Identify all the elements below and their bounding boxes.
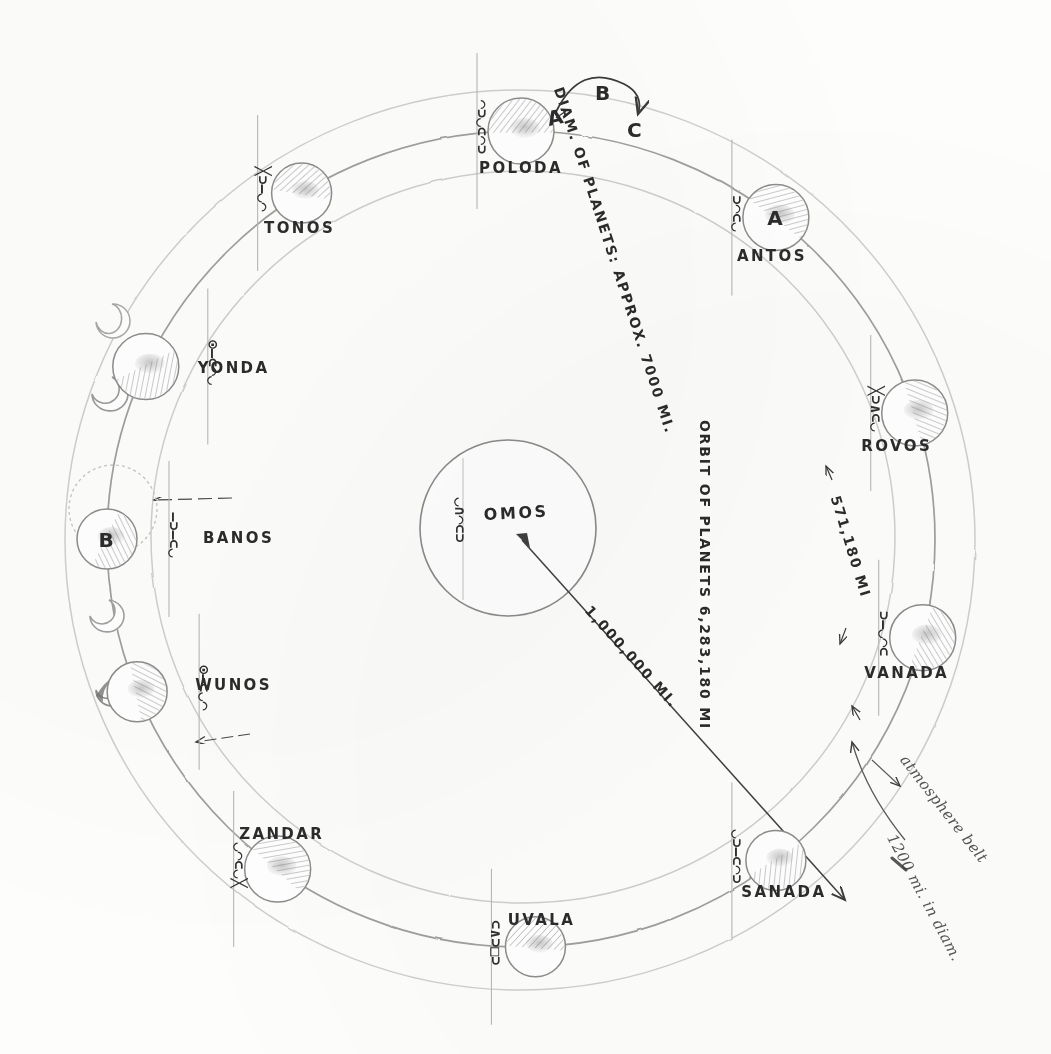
planet-antos[interactable]: AANTOS⊃◠⊂◡ xyxy=(728,139,822,295)
planet-label: ZANDAR xyxy=(239,825,324,843)
planet-smudge xyxy=(912,625,942,645)
sun-circle xyxy=(420,440,596,616)
planet-wunos[interactable]: WUNOS⊙—⊂◡◠ xyxy=(107,614,272,770)
omos-system-svg: OMOS ◡∩◠⊂⊃ 1,000,000 MI. ORBIT OF PLANET… xyxy=(0,0,1051,1054)
planet-smudge xyxy=(292,181,319,199)
atmosphere-belt-label: atmosphere belt xyxy=(896,751,992,866)
planet-label: TONOS xyxy=(264,219,335,237)
planet-smudge xyxy=(135,354,165,374)
rotation-mark-c: C xyxy=(627,118,642,142)
planet-label: VANADA xyxy=(864,664,949,682)
atmosphere-belt-annotation: atmosphere belt 1200 mi. in diam. xyxy=(852,742,992,964)
planet-script-glyphs: ⊙—⊂◡◠ xyxy=(195,665,213,710)
planet-smudge xyxy=(128,680,155,698)
sun-glyphs: ◡∩◠⊂⊃ xyxy=(451,497,469,542)
atmosphere-diam-label: 1200 mi. in diam. xyxy=(883,831,965,964)
planet-script-glyphs: ⊃—◡◠⊂ xyxy=(875,611,893,656)
diagram-canvas: OMOS ◡∩◠⊂⊃ 1,000,000 MI. ORBIT OF PLANET… xyxy=(0,0,1051,1054)
planet-mark-letter: A xyxy=(767,206,783,230)
planet-script-glyphs: ◠⊃◡⊂◠⊃ xyxy=(473,100,491,154)
sun-omos: OMOS ◡∩◠⊂⊃ xyxy=(420,440,596,616)
planet-smudge xyxy=(904,400,934,420)
planet-vanada[interactable]: VANADA⊃—◡◠⊂ xyxy=(864,560,965,716)
planet-label: UVALA xyxy=(508,911,576,929)
planet-uvala[interactable]: UVALA⊂∧⊃□⊃ xyxy=(487,869,575,1025)
planet-script-glyphs: ⊂∧⊃□⊃ xyxy=(487,920,505,965)
planet-sanada[interactable]: SANADA◡⊃—⊂◠⊃ xyxy=(728,783,827,939)
planet-script-glyphs: ╳⊃—◡◠ xyxy=(254,165,272,211)
diam-of-planets-label: DIAM. OF PLANETS: APPROX. 7000 MI. xyxy=(551,85,679,436)
sun-distance-label: 1,000,000 MI. xyxy=(582,602,682,710)
planet-label: ROVOS xyxy=(861,437,932,455)
planet-rovos[interactable]: ROVOS╳⊃∧⊂◡ xyxy=(861,335,955,491)
banos-pointer xyxy=(154,498,232,500)
planet-script-glyphs: ⊃◠⊂◡ xyxy=(728,195,746,231)
planet-banos[interactable]: BBANOS—⊃—⊂◡ xyxy=(77,461,274,617)
diam-of-planets-annotation: DIAM. OF PLANETS: APPROX. 7000 MI. xyxy=(551,85,679,436)
planet-label: BANOS xyxy=(203,529,274,547)
planet-mark-letter: B xyxy=(98,528,113,552)
planet-smudge xyxy=(510,118,540,138)
planet-smudge xyxy=(526,935,553,953)
planet-smudge xyxy=(766,849,793,867)
planet-script-glyphs: ◡◠⊂◡╳ xyxy=(230,843,248,889)
planet-script-glyphs: ⊙—⊂◠◡ xyxy=(204,340,222,385)
planet-label: ANTOS xyxy=(737,247,807,265)
planet-spacing-annotation: 571,180 MI xyxy=(826,466,874,720)
planet-label: SANADA xyxy=(741,883,826,901)
moon-phase-crescent xyxy=(96,304,130,338)
planet-script-glyphs: ◡⊃—⊂◠⊃ xyxy=(728,829,746,883)
rotation-mark-b: B xyxy=(595,81,610,105)
wunos-pointer xyxy=(196,734,250,742)
planet-script-glyphs: ╳⊃∧⊂◡ xyxy=(867,385,885,431)
sun-label: OMOS xyxy=(483,502,549,524)
planet-spacing-label: 571,180 MI xyxy=(828,494,874,600)
moon-phase-crescent xyxy=(90,600,124,632)
planet-yonda[interactable]: YONDA⊙—⊂◠◡ xyxy=(113,289,270,445)
orbit-of-planets-label: ORBIT OF PLANETS 6,283,180 MI xyxy=(697,420,713,730)
planet-script-glyphs: —⊃—⊂◡ xyxy=(165,512,183,557)
planet-smudge xyxy=(267,856,297,876)
planet-label: POLODA xyxy=(479,159,563,177)
planet-zandar[interactable]: ZANDAR◡◠⊂◡╳ xyxy=(230,791,325,947)
